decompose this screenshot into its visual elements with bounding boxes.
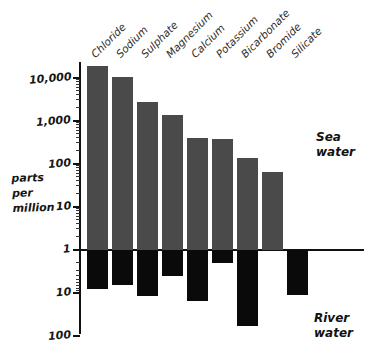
axis-tick-minor xyxy=(76,208,80,209)
bar-river-water xyxy=(287,250,308,295)
series-label-sea-water-line-1: Sea xyxy=(316,130,355,145)
bar-river-water xyxy=(237,250,258,326)
bar-sea-water xyxy=(212,139,233,250)
y-tick-label-down-1: 100 xyxy=(48,328,72,343)
chart-container: ChlorideSodiumSulphateMagnesiumCalciumPo… xyxy=(0,0,368,360)
axis-tick-minor xyxy=(76,176,80,177)
axis-tick-minor xyxy=(76,275,80,276)
axis-tick-minor xyxy=(76,173,80,174)
axis-tick-major xyxy=(73,206,80,208)
bar-river-water xyxy=(187,250,208,301)
y-tick-label-up-2: 100 xyxy=(48,156,72,171)
plot-area xyxy=(86,62,314,334)
series-label-river-water: River water xyxy=(314,311,353,341)
axis-tick-minor xyxy=(76,79,80,80)
axis-tick-minor xyxy=(76,81,80,82)
series-label-river-water-line-2: water xyxy=(314,326,353,341)
axis-tick-minor xyxy=(76,228,80,229)
bar-column xyxy=(186,62,211,334)
bar-river-water xyxy=(87,250,108,289)
axis-tick-minor xyxy=(76,219,80,220)
y-tick-label-up-1: 10 xyxy=(55,199,71,213)
axis-tick-major xyxy=(73,249,80,251)
axis-tick-minor xyxy=(76,124,80,125)
axis-tick-major xyxy=(73,77,80,79)
axis-tick-minor xyxy=(76,285,80,286)
y-tick-label-down-0: 10 xyxy=(55,285,71,299)
axis-tick-major xyxy=(73,163,80,165)
axis-tick-minor xyxy=(76,90,80,91)
axis-tick-minor xyxy=(76,167,80,168)
series-label-sea-water: Sea water xyxy=(316,130,355,160)
bar-river-water xyxy=(212,250,233,263)
bar-column xyxy=(111,62,136,334)
axis-tick-major xyxy=(73,335,80,337)
axis-tick-minor xyxy=(76,87,80,88)
axis-tick-minor xyxy=(76,137,80,138)
bar-sea-water xyxy=(162,115,183,250)
bar-column xyxy=(236,62,261,334)
y-tick-label-up-0: 1 xyxy=(63,242,72,256)
bar-river-water xyxy=(112,250,133,285)
axis-tick-minor xyxy=(76,288,80,289)
axis-tick-major xyxy=(73,292,80,294)
y-axis-tick-labels: 1101001,00010,00010100 xyxy=(0,0,71,360)
axis-tick-minor xyxy=(76,127,80,128)
bar-column xyxy=(286,62,311,334)
bar-column xyxy=(136,62,161,334)
axis-tick-minor xyxy=(76,282,80,283)
bar-sea-water xyxy=(87,66,108,250)
series-label-sea-water-line-2: water xyxy=(316,145,355,160)
axis-tick-minor xyxy=(76,279,80,280)
bar-column xyxy=(86,62,111,334)
y-tick-label-up-3: 1,000 xyxy=(36,113,72,129)
bar-sea-water xyxy=(112,77,133,250)
axis-tick-minor xyxy=(76,94,80,95)
bar-river-water xyxy=(162,250,183,276)
axis-tick-minor xyxy=(76,216,80,217)
axis-tick-minor xyxy=(76,130,80,131)
y-tick-label-up-4: 10,000 xyxy=(28,70,71,87)
axis-tick-minor xyxy=(76,84,80,85)
axis-tick-minor xyxy=(76,223,80,224)
bar-sea-water xyxy=(137,102,158,250)
bar-column xyxy=(261,62,286,334)
axis-tick-minor xyxy=(76,122,80,123)
bar-river-water xyxy=(137,250,158,296)
axis-tick-minor xyxy=(76,150,80,151)
axis-tick-minor xyxy=(76,236,80,237)
bar-sea-water xyxy=(237,158,258,250)
axis-tick-minor xyxy=(76,290,80,291)
series-label-river-water-line-1: River xyxy=(314,311,353,326)
axis-tick-minor xyxy=(76,180,80,181)
bar-column xyxy=(161,62,186,334)
bar-column xyxy=(211,62,236,334)
axis-tick-minor xyxy=(76,193,80,194)
axis-tick-minor xyxy=(76,262,80,263)
axis-tick-minor xyxy=(76,142,80,143)
axis-tick-minor xyxy=(76,185,80,186)
bar-sea-water xyxy=(262,172,283,250)
axis-tick-major xyxy=(73,120,80,122)
bar-sea-water xyxy=(187,138,208,250)
axis-tick-minor xyxy=(76,213,80,214)
axis-tick-minor xyxy=(76,165,80,166)
axis-tick-minor xyxy=(76,107,80,108)
axis-tick-minor xyxy=(76,99,80,100)
axis-tick-minor xyxy=(76,270,80,271)
axis-tick-minor xyxy=(76,210,80,211)
axis-tick-minor xyxy=(76,133,80,134)
axis-tick-minor xyxy=(76,170,80,171)
